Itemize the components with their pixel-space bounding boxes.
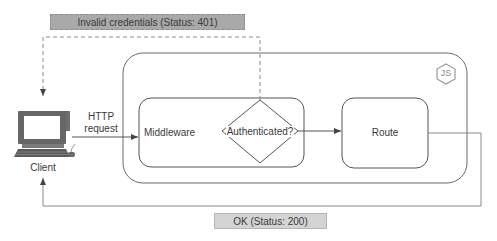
invalid-credentials-badge: Invalid credentials (Status: 401)	[50, 14, 245, 30]
server-container	[123, 53, 467, 183]
http-request-label-line2: request	[82, 123, 120, 134]
nodejs-icon-text: JS	[439, 68, 453, 79]
route-label: Route	[366, 127, 404, 138]
invalid-credentials-label: Invalid credentials (Status: 401)	[77, 17, 217, 28]
ok-status-label: OK (Status: 200)	[233, 216, 307, 227]
authenticated-label: Authenticated?	[226, 126, 294, 137]
middleware-label: Middleware	[144, 127, 195, 138]
http-request-label-line1: HTTP	[84, 111, 118, 122]
desktop-computer-icon	[14, 111, 75, 157]
ok-status-badge: OK (Status: 200)	[214, 213, 327, 229]
unauthorized-return-path	[43, 37, 260, 100]
client-label: Client	[23, 162, 63, 173]
diagram-canvas	[0, 0, 497, 241]
